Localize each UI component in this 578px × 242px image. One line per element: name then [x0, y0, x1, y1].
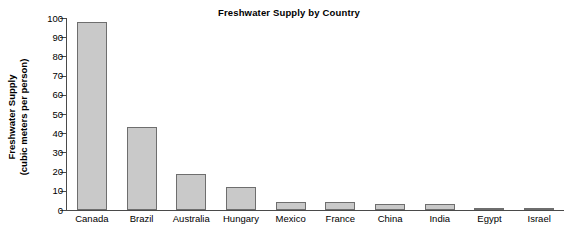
y-tick-label: 50 [52, 110, 63, 120]
bar-china[interactable] [375, 204, 405, 210]
bar-slot [365, 18, 415, 210]
bar-brazil[interactable] [127, 127, 157, 210]
bar-slot [266, 18, 316, 210]
y-tick-label: 90 [52, 33, 63, 43]
source-note [66, 233, 566, 242]
y-tick-label: 70 [52, 71, 63, 81]
bar-slot [117, 18, 167, 210]
x-tick-label-hungary: Hungary [216, 213, 266, 224]
x-tick-label-canada: Canada [67, 213, 117, 224]
x-tick-label-israel: Israel [514, 213, 564, 224]
chart-title: Freshwater Supply by Country [0, 7, 578, 18]
bar-series [67, 18, 564, 210]
x-tick-label-france: France [316, 213, 366, 224]
bar-india[interactable] [425, 204, 455, 210]
bar-canada[interactable] [77, 22, 107, 210]
bar-slot [216, 18, 266, 210]
x-tick-label-china: China [365, 213, 415, 224]
x-tick-label-india: India [415, 213, 465, 224]
bar-slot [166, 18, 216, 210]
x-tick-label-brazil: Brazil [117, 213, 167, 224]
y-tick-label: 100 [47, 14, 63, 24]
y-tick-label: 0 [58, 206, 63, 216]
bar-slot [316, 18, 366, 210]
bar-slot [465, 18, 515, 210]
chart-figure: Freshwater Supply by Country Freshwater … [0, 0, 578, 242]
y-axis-title-line-2: (cubic meters per person) [17, 59, 29, 176]
y-axis-title: Freshwater Supply (cubic meters per pers… [2, 22, 32, 212]
y-axis-title-line-1: Freshwater Supply [6, 59, 18, 176]
x-tick-label-egypt: Egypt [465, 213, 515, 224]
x-tick-label-australia: Australia [166, 213, 216, 224]
y-tick-label: 80 [52, 52, 63, 62]
y-tick-label: 60 [52, 91, 63, 101]
x-tick-label-mexico: Mexico [266, 213, 316, 224]
bar-mexico[interactable] [276, 202, 306, 210]
bar-slot [67, 18, 117, 210]
plot-area: 0102030405060708090100 [66, 18, 564, 211]
y-tick-label: 30 [52, 148, 63, 158]
x-axis-tick-labels: CanadaBrazilAustraliaHungaryMexicoFrance… [67, 213, 564, 224]
y-tick-label: 20 [52, 167, 63, 177]
bar-egypt[interactable] [474, 208, 504, 210]
bar-slot [415, 18, 465, 210]
y-tick-label: 10 [52, 187, 63, 197]
bar-australia[interactable] [176, 174, 206, 210]
bar-france[interactable] [325, 202, 355, 210]
y-tick-label: 40 [52, 129, 63, 139]
bar-israel[interactable] [524, 208, 554, 210]
bar-hungary[interactable] [226, 187, 256, 210]
x-axis-line [66, 210, 564, 211]
bar-slot [514, 18, 564, 210]
